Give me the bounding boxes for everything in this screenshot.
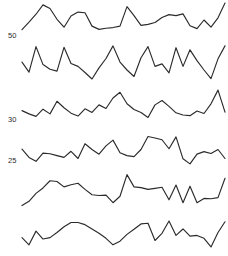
sparkline-series-1 xyxy=(22,3,225,30)
axis-value-label-50: 50 xyxy=(8,31,16,40)
sparkline-series-2 xyxy=(22,46,225,79)
axis-label-group: 503025 xyxy=(8,31,16,165)
sparkline-figure: 503025 xyxy=(0,0,228,256)
sparkline-series-6 xyxy=(22,221,225,247)
sparkline-series-4 xyxy=(22,137,225,164)
sparkline-chart-canvas: 503025 xyxy=(0,0,228,256)
axis-value-label-30: 30 xyxy=(8,115,16,124)
sparkline-series-3 xyxy=(22,90,225,117)
sparkline-series-5 xyxy=(22,175,225,206)
sparkline-series-group xyxy=(22,3,225,247)
axis-value-label-25: 25 xyxy=(8,156,16,165)
